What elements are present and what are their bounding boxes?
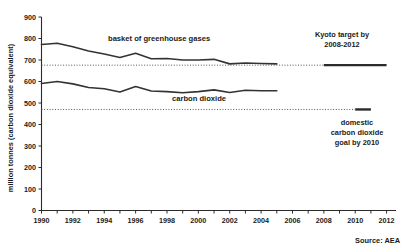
- y-axis-ticks: 0100200300400500600700800900: [24, 13, 42, 216]
- data-series: [42, 43, 277, 92]
- x-tick-label: 2006: [284, 216, 300, 225]
- y-axis-title-label: million tonnes (carbon dioxide equivalen…: [6, 43, 15, 192]
- kyoto-annotation-line2: 2008-2012: [324, 40, 359, 49]
- target-segments: [324, 65, 387, 109]
- emissions-line-chart: million tonnes (carbon dioxide equivalen…: [0, 0, 411, 249]
- y-tick-label: 400: [24, 120, 36, 129]
- y-tick-label: 200: [24, 163, 36, 172]
- series-label-greenhouse-gases: basket of greenhouse gases: [108, 34, 210, 43]
- kyoto-target-annotation: Kyoto target by 2008-2012: [315, 30, 370, 49]
- domestic-annotation-line2: carbon dioxide: [331, 128, 384, 137]
- x-tick-label: 1990: [34, 216, 50, 225]
- kyoto-annotation-line1: Kyoto target by: [315, 30, 370, 39]
- series-label-carbon-dioxide: carbon dioxide: [172, 94, 226, 103]
- y-tick-label: 100: [24, 185, 36, 194]
- y-tick-label: 600: [24, 77, 36, 86]
- y-tick-label: 0: [32, 206, 36, 215]
- x-axis-ticks: 1990199219941996199820002002200420062008…: [34, 211, 395, 226]
- x-tick-label: 2002: [222, 216, 238, 225]
- y-tick-label: 300: [24, 142, 36, 151]
- x-tick-label: 2000: [190, 216, 206, 225]
- y-tick-label: 500: [24, 99, 36, 108]
- domestic-annotation-line3: goal by 2010: [335, 138, 379, 147]
- y-axis-title: million tonnes (carbon dioxide equivalen…: [6, 43, 15, 192]
- source-attribution: Source: AEA: [355, 236, 401, 245]
- x-tick-label: 2004: [253, 216, 269, 225]
- y-tick-label: 800: [24, 34, 36, 43]
- domestic-goal-annotation: domestic carbon dioxide goal by 2010: [331, 118, 384, 147]
- x-tick-label: 1996: [128, 216, 144, 225]
- x-tick-label: 1994: [96, 216, 112, 225]
- domestic-annotation-line1: domestic: [341, 118, 373, 127]
- x-tick-label: 2008: [316, 216, 332, 225]
- x-tick-label: 1992: [65, 216, 81, 225]
- x-tick-label: 2012: [379, 216, 395, 225]
- x-tick-label: 1998: [159, 216, 175, 225]
- series-line-0: [42, 43, 277, 64]
- x-tick-label: 2010: [347, 216, 363, 225]
- chart-container: million tonnes (carbon dioxide equivalen…: [0, 0, 411, 249]
- y-tick-label: 700: [24, 56, 36, 65]
- series-line-1: [42, 82, 277, 93]
- y-tick-label: 900: [24, 13, 36, 22]
